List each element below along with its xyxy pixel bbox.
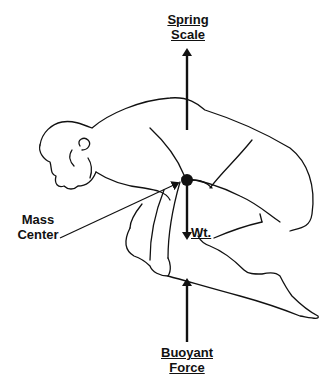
ear: [79, 138, 90, 150]
spring-scale-label: Spring Scale: [160, 12, 216, 42]
buoyant-force-line1: Buoyant: [152, 345, 222, 360]
mass-center-line1: Mass: [14, 212, 62, 227]
figure-diagram: [0, 0, 334, 384]
thigh-outline: [182, 178, 280, 222]
mass-center-label: Mass Center: [14, 212, 62, 242]
weight-label: Wt.: [191, 225, 211, 240]
arm-outline: [150, 128, 184, 175]
human-figure: [40, 98, 319, 319]
face-outline: [40, 145, 96, 189]
mass-center-pointer: [60, 184, 176, 238]
buoyant-force-label: Buoyant Force: [152, 345, 222, 375]
back-outline: [40, 98, 313, 231]
spring-scale-line1: Spring: [160, 12, 216, 27]
shin-outline: [168, 236, 318, 318]
buoyant-force-line2: Force: [152, 360, 222, 375]
hand: [126, 228, 170, 276]
spring-scale-line2: Scale: [160, 27, 216, 42]
mass-center-line2: Center: [14, 227, 62, 242]
